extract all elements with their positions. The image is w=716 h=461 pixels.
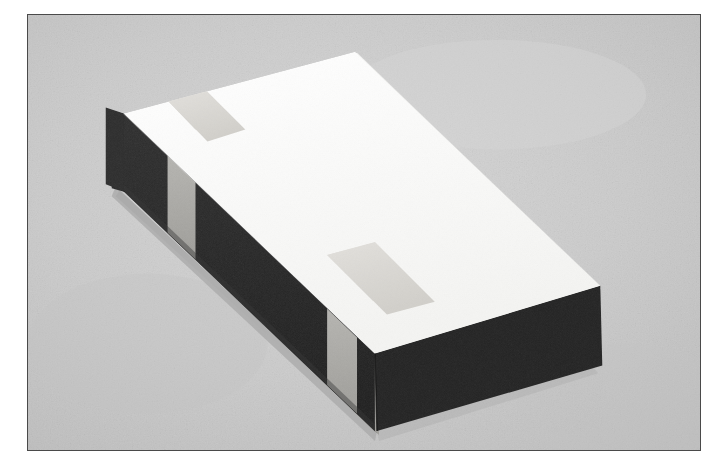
figure-root: striped rectangular beam halftone print …	[0, 0, 716, 461]
photo-border: striped rectangular beam halftone print …	[27, 14, 701, 451]
photograph: striped rectangular beam halftone print …	[28, 15, 700, 450]
near-end-cap	[106, 108, 124, 192]
